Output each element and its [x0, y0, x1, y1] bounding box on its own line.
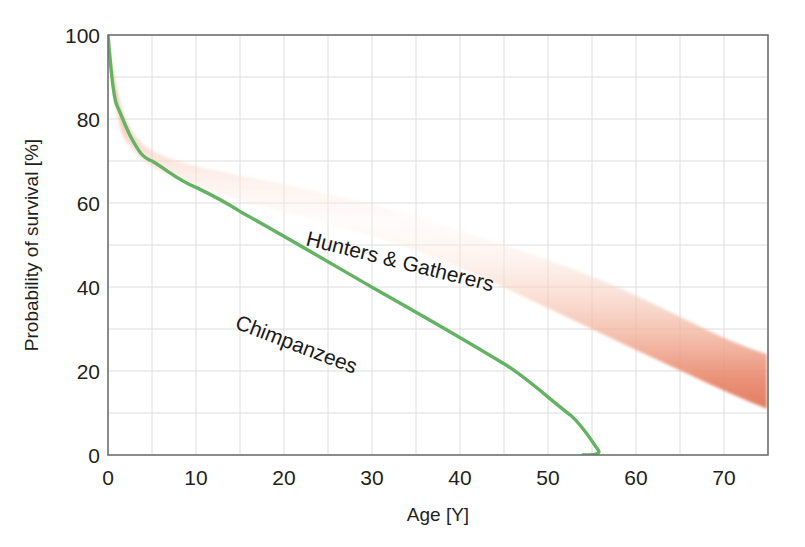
- x-tick-label-50: 50: [536, 466, 559, 489]
- x-tick-label-30: 30: [360, 466, 383, 489]
- x-tick-label-70: 70: [712, 466, 735, 489]
- x-tick-label-10: 10: [184, 466, 207, 489]
- y-tick-label-0: 0: [88, 444, 100, 467]
- chart-canvas: 100 80 60 40 20 0 0 10 20 30 40 50 60 70…: [0, 0, 805, 547]
- x-tick-label-0: 0: [102, 466, 114, 489]
- y-tick-label-60: 60: [77, 192, 100, 215]
- figure-background: [0, 0, 805, 547]
- x-tick-label-40: 40: [448, 466, 471, 489]
- y-tick-label-20: 20: [77, 360, 100, 383]
- y-axis-title: Probability of survival [%]: [21, 139, 42, 351]
- y-tick-label-80: 80: [77, 108, 100, 131]
- y-tick-label-40: 40: [77, 276, 100, 299]
- x-axis-title: Age [Y]: [407, 504, 469, 525]
- x-tick-label-60: 60: [624, 466, 647, 489]
- survival-curve-figure: 100 80 60 40 20 0 0 10 20 30 40 50 60 70…: [0, 0, 805, 547]
- y-tick-label-100: 100: [65, 24, 100, 47]
- x-tick-label-20: 20: [272, 466, 295, 489]
